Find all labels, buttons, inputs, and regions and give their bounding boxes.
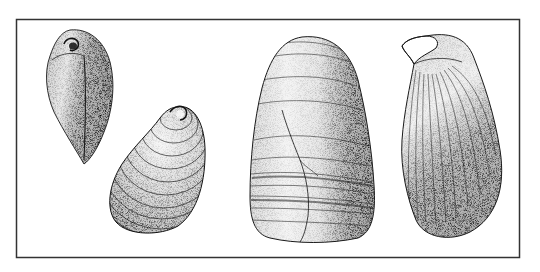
illustration-plate: Engraved scientific illustration of four…	[0, 0, 540, 272]
plate-canvas	[0, 0, 540, 272]
shell-1-illustration	[47, 30, 113, 164]
shell-3-illustration	[250, 37, 374, 243]
shell-4-illustration	[402, 35, 502, 238]
